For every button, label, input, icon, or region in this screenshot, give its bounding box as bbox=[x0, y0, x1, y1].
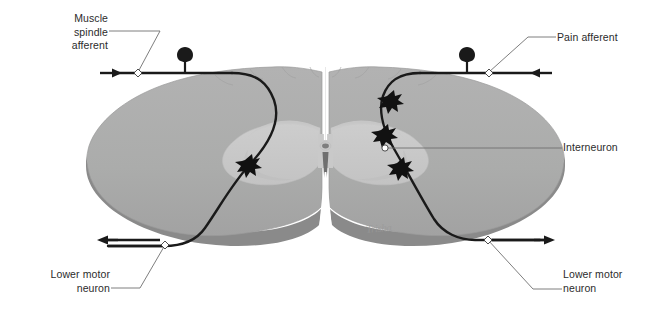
leader-lmn-left bbox=[111, 245, 165, 288]
connector-interneuron bbox=[382, 145, 388, 151]
artist-signature: Trisha bbox=[366, 221, 392, 235]
leader-muscle-spindle bbox=[109, 31, 160, 72]
spinal-cord-reflex-diagram: Muscle spindle afferent Pain afferent In… bbox=[0, 0, 651, 313]
arrow-in-right bbox=[530, 69, 540, 78]
label-pain-afferent: Pain afferent bbox=[557, 31, 649, 45]
label-lower-motor-neuron-right: Lower motor neuron bbox=[563, 268, 651, 295]
dorsal-root-ganglion-left bbox=[177, 47, 193, 73]
connector-lmn-left bbox=[161, 241, 169, 249]
leader-pain-afferent bbox=[489, 37, 556, 72]
connector-pain-afferent bbox=[485, 69, 493, 77]
central-canal bbox=[322, 144, 329, 149]
label-lower-motor-neuron-left: Lower motor neuron bbox=[14, 268, 110, 295]
arrow-in-left bbox=[112, 69, 122, 78]
connector-muscle-spindle bbox=[134, 69, 142, 77]
label-interneuron: Interneuron bbox=[563, 141, 647, 155]
dorsal-root-ganglion-right bbox=[459, 47, 475, 73]
leader-lmn-right bbox=[488, 240, 562, 289]
label-muscle-spindle-afferent: Muscle spindle afferent bbox=[30, 12, 108, 53]
